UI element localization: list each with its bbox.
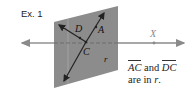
example-label: Ex. 1 — [21, 8, 43, 19]
label-c: C — [83, 46, 90, 57]
line-ac-notation: AC — [128, 62, 141, 74]
point-x — [153, 42, 156, 45]
label-x: X — [149, 28, 157, 39]
point-a — [95, 26, 97, 28]
caption-line-1: AC and DC — [128, 62, 176, 74]
caption-are-in: are in — [128, 74, 154, 85]
caption-and: and — [141, 62, 161, 73]
label-d: D — [74, 23, 83, 34]
caption-line-2: are in r. — [128, 74, 176, 86]
point-c — [85, 41, 88, 44]
label-a: A — [97, 24, 105, 35]
caption-period: . — [158, 74, 161, 85]
label-plane-r: r — [104, 54, 108, 64]
caption: AC and DC are in r. — [128, 62, 176, 86]
geometry-figure: Ex. 1 D A C r X AC and DC are in r. — [0, 0, 196, 98]
line-dc-notation: DC — [162, 62, 177, 74]
point-d — [79, 37, 81, 39]
